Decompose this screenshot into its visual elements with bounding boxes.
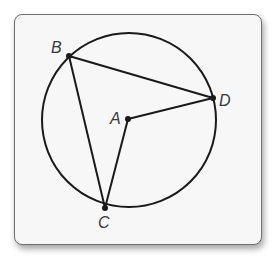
point-a xyxy=(125,116,131,122)
point-b xyxy=(66,53,72,59)
segment-ac xyxy=(105,119,128,208)
segment-bc xyxy=(69,56,105,208)
label-d: D xyxy=(219,92,231,109)
point-labels: ABCD xyxy=(51,39,231,231)
segment-ad xyxy=(128,98,213,119)
segments xyxy=(69,56,213,208)
point-c xyxy=(102,205,108,211)
label-b: B xyxy=(51,39,62,56)
point-d xyxy=(210,95,216,101)
label-c: C xyxy=(98,214,110,231)
label-a: A xyxy=(109,110,121,127)
segment-bd xyxy=(69,56,213,98)
geometry-diagram: ABCD xyxy=(0,0,276,261)
